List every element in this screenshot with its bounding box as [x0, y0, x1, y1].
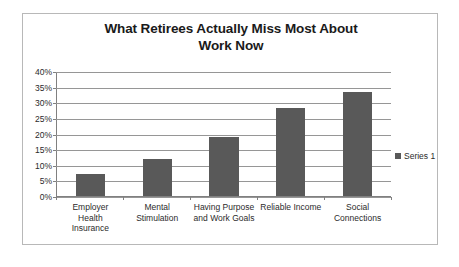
- chart-legend: Series 1: [395, 151, 435, 161]
- x-axis-category-label-line: Mental: [125, 202, 190, 213]
- x-axis-category-label-line: Health: [58, 213, 123, 224]
- x-axis-category-label: EmployerHealthInsurance: [57, 202, 124, 234]
- y-axis-tick-label: 35%: [35, 83, 52, 93]
- bar-slot: [124, 72, 191, 196]
- y-axis-tick-label: 40%: [35, 67, 52, 77]
- bar[interactable]: [343, 92, 372, 196]
- x-axis-category-label: Having Purposeand Work Goals: [191, 202, 258, 234]
- chart-title-line-1: What Retirees Actually Miss Most About: [53, 20, 409, 37]
- bar[interactable]: [76, 174, 105, 196]
- y-axis-tick-mark: [53, 181, 56, 182]
- x-axis-category-label: SocialConnections: [324, 202, 391, 234]
- x-axis-label-group: EmployerHealthInsuranceMentalStimulation…: [57, 202, 391, 234]
- y-axis-tick-mark: [53, 72, 56, 73]
- y-axis-tick-label: 25%: [35, 114, 52, 124]
- chart-title-line-2: Work Now: [53, 37, 409, 54]
- bar-slot: [257, 72, 324, 196]
- x-axis-category-label: MentalStimulation: [124, 202, 191, 234]
- legend-label: Series 1: [404, 151, 435, 161]
- x-axis-tick-mark: [324, 197, 325, 200]
- y-axis-tick-mark: [53, 166, 56, 167]
- x-axis-tick-mark: [391, 197, 392, 200]
- x-axis-category-label-line: and Work Goals: [192, 213, 257, 224]
- y-axis-tick-label: 30%: [35, 98, 52, 108]
- x-axis-category-label-line: Stimulation: [125, 213, 190, 224]
- bar[interactable]: [276, 108, 305, 196]
- x-axis-category-label-line: Having Purpose: [192, 202, 257, 213]
- x-axis-tick-mark: [257, 197, 258, 200]
- x-axis-category-label-line: Social: [325, 202, 390, 213]
- y-axis-tick-label: 20%: [35, 130, 52, 140]
- x-axis-category-label-line: Connections: [325, 213, 390, 224]
- x-axis-tick-mark: [56, 197, 57, 200]
- y-axis-tick-label: 15%: [35, 145, 52, 155]
- bar-slot: [57, 72, 124, 196]
- y-axis-tick-label: 0%: [40, 192, 52, 202]
- y-axis-tick-label: 10%: [35, 161, 52, 171]
- x-axis-category-label-line: Reliable Income: [258, 202, 323, 213]
- plot-area: 40%35%30%25%20%15%10%5%0%: [56, 72, 391, 197]
- legend-swatch-icon: [395, 153, 401, 159]
- gridline: [56, 197, 391, 198]
- x-axis-tick-mark: [190, 197, 191, 200]
- y-axis-tick-mark: [53, 150, 56, 151]
- y-axis-tick-mark: [53, 119, 56, 120]
- bar[interactable]: [209, 137, 238, 196]
- bar-slot: [324, 72, 391, 196]
- x-axis-category-label: Reliable Income: [257, 202, 324, 234]
- x-axis-category-label-line: Insurance: [58, 223, 123, 234]
- y-axis-tick-label: 5%: [40, 176, 52, 186]
- chart-frame: What Retirees Actually Miss Most About W…: [22, 13, 438, 245]
- chart-title: What Retirees Actually Miss Most About W…: [53, 20, 409, 54]
- x-axis-tick-mark: [123, 197, 124, 200]
- bar-slot: [191, 72, 258, 196]
- y-axis-tick-mark: [53, 103, 56, 104]
- y-axis-tick-mark: [53, 88, 56, 89]
- x-axis-category-label-line: Employer: [58, 202, 123, 213]
- bar[interactable]: [143, 159, 172, 196]
- bars-group: [57, 72, 391, 196]
- y-axis-tick-mark: [53, 135, 56, 136]
